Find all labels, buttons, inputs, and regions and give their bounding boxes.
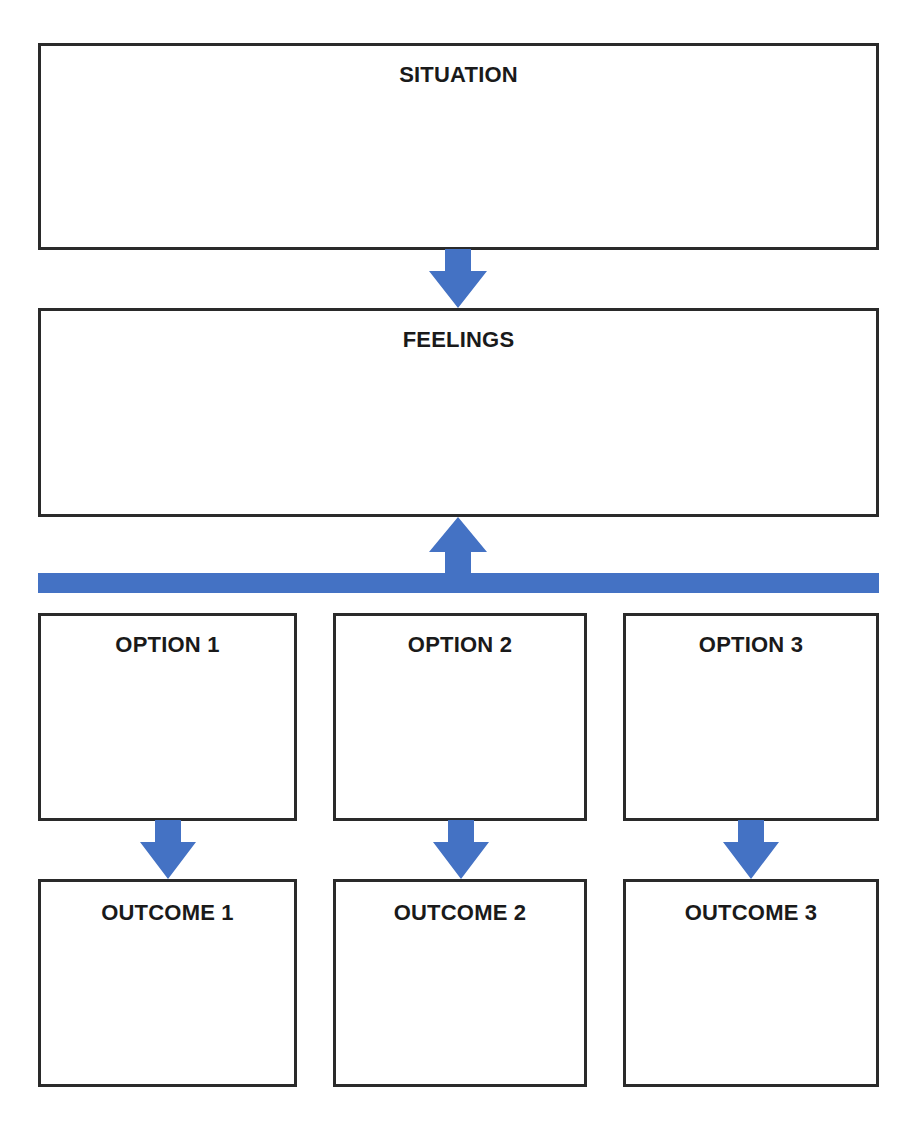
options-connector-bar xyxy=(38,573,879,593)
outcome-3-box: OUTCOME 3 xyxy=(623,879,879,1087)
arrow-down-icon xyxy=(431,820,491,880)
feelings-box: FEELINGS xyxy=(38,308,879,517)
outcome-1-title: OUTCOME 1 xyxy=(41,900,294,926)
feelings-title: FEELINGS xyxy=(41,327,876,353)
arrow-up-icon xyxy=(428,516,488,576)
option-1-box: OPTION 1 xyxy=(38,613,297,821)
outcome-2-title: OUTCOME 2 xyxy=(336,900,584,926)
option-1-title: OPTION 1 xyxy=(41,632,294,658)
outcome-3-title: OUTCOME 3 xyxy=(626,900,876,926)
arrow-down-icon xyxy=(721,820,781,880)
arrow-down-icon xyxy=(138,820,198,880)
option-3-box: OPTION 3 xyxy=(623,613,879,821)
option-2-box: OPTION 2 xyxy=(333,613,587,821)
situation-title: SITUATION xyxy=(41,62,876,88)
situation-box: SITUATION xyxy=(38,43,879,250)
option-2-title: OPTION 2 xyxy=(336,632,584,658)
arrow-down-icon xyxy=(428,249,488,309)
outcome-2-box: OUTCOME 2 xyxy=(333,879,587,1087)
option-3-title: OPTION 3 xyxy=(626,632,876,658)
outcome-1-box: OUTCOME 1 xyxy=(38,879,297,1087)
